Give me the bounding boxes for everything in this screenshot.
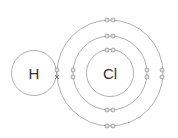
electron-dot [111, 48, 115, 52]
electron-dot [111, 34, 115, 38]
electron-dot [105, 48, 109, 52]
electron-dot [71, 75, 75, 79]
electron-dot [160, 68, 164, 72]
chlorine-label: Cl [103, 65, 117, 82]
electron-dot [105, 34, 109, 38]
shell-1-electrons [105, 48, 115, 52]
electron-dot [105, 108, 109, 112]
electron-dot [105, 124, 109, 128]
electron-dot [71, 68, 75, 72]
electron-dot [111, 18, 115, 22]
hydrogen-label: H [29, 65, 40, 82]
electron-dot [111, 124, 115, 128]
electron-dot [160, 75, 164, 79]
electron-dot [111, 108, 115, 112]
electron-dot-shared [55, 68, 59, 72]
electron-dot [105, 18, 109, 22]
hcl-bond-diagram: H Cl [0, 0, 178, 138]
hydrogen-atom: H [12, 51, 57, 96]
electron-dot [145, 75, 149, 79]
electron-dot [145, 68, 149, 72]
chlorine-atom: Cl [57, 20, 163, 126]
